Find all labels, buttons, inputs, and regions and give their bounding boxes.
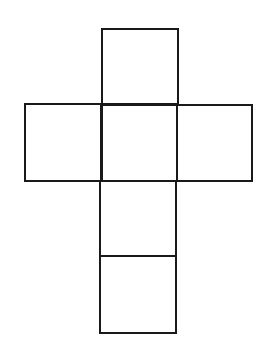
face-top (102, 29, 178, 105)
face-lower-middle (100, 181, 176, 256)
face-left (25, 104, 102, 181)
face-bottom (100, 256, 176, 333)
cube-net-diagram (0, 0, 278, 363)
face-center (101, 104, 177, 181)
face-right (177, 105, 252, 181)
